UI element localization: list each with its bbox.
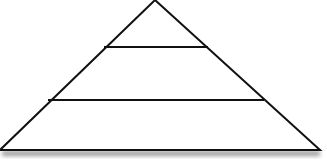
base-shadow [2, 151, 320, 156]
pyramid-outline [0, 0, 320, 150]
pyramid-svg [0, 0, 327, 163]
pyramid-diagram [0, 0, 327, 163]
